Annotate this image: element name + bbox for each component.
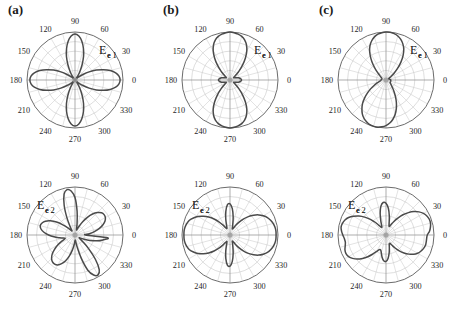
origin-marker (227, 77, 232, 82)
field-label-subscript-index: 2 (206, 205, 210, 215)
angle-tick-240: 240 (194, 282, 206, 291)
field-label-subscript-e: e (356, 205, 360, 215)
origin-marker (383, 232, 388, 237)
angle-tick-330: 330 (431, 261, 443, 270)
angle-tick-60: 60 (100, 180, 108, 189)
angle-tick-300: 300 (98, 282, 110, 291)
angle-tick-60: 60 (411, 25, 419, 34)
angle-tick-120: 120 (350, 180, 362, 189)
angle-tick-330: 330 (275, 261, 287, 270)
angle-tick-180: 180 (10, 76, 22, 85)
angle-tick-180: 180 (321, 76, 333, 85)
angle-tick-210: 210 (18, 106, 30, 115)
field-label-E: E (37, 198, 44, 212)
angle-tick-90: 90 (226, 172, 234, 181)
angle-tick-0: 0 (443, 231, 447, 240)
angle-tick-150: 150 (18, 202, 30, 211)
field-label-E: E (348, 198, 355, 212)
angle-tick-60: 60 (255, 180, 263, 189)
angle-tick-180: 180 (165, 76, 177, 85)
angle-tick-270: 270 (224, 135, 236, 144)
field-label: Ee2 (192, 198, 210, 215)
angle-tick-210: 210 (173, 261, 185, 270)
polar-radiation-pattern-figure: (a)0306090120150180210240270300330Ee1(b)… (0, 0, 466, 309)
field-label-subscript-index: 2 (51, 205, 55, 215)
angle-tick-30: 30 (433, 47, 441, 56)
field-label-subscript-e: e (107, 50, 111, 60)
angle-tick-210: 210 (173, 106, 185, 115)
polar-plot-panel-a-top: 0306090120150180210240270300330Ee1 (0, 0, 150, 152)
angle-tick-300: 300 (98, 127, 110, 136)
polar-plot-panel-b-top: 0306090120150180210240270300330Ee1 (155, 0, 305, 152)
angle-tick-300: 300 (253, 282, 265, 291)
angle-tick-240: 240 (350, 127, 362, 136)
panel-letter-label: (a) (8, 2, 23, 18)
angle-tick-330: 330 (120, 106, 132, 115)
angle-tick-0: 0 (132, 76, 136, 85)
angle-tick-30: 30 (277, 47, 285, 56)
field-label-E: E (192, 198, 199, 212)
field-label-subscript-index: 2 (362, 205, 366, 215)
angle-tick-330: 330 (120, 261, 132, 270)
angle-tick-180: 180 (165, 231, 177, 240)
angle-tick-240: 240 (194, 127, 206, 136)
origin-marker (383, 77, 388, 82)
angle-tick-90: 90 (382, 17, 390, 26)
angle-tick-300: 300 (409, 282, 421, 291)
field-label-subscript-e: e (45, 205, 49, 215)
angle-tick-330: 330 (431, 106, 443, 115)
field-label: Ee2 (37, 198, 55, 215)
angle-tick-0: 0 (287, 76, 291, 85)
angle-tick-120: 120 (39, 25, 51, 34)
angle-tick-180: 180 (10, 231, 22, 240)
angle-tick-300: 300 (253, 127, 265, 136)
angle-tick-120: 120 (39, 180, 51, 189)
polar-plot-panel-c-top: 0306090120150180210240270300330Ee1 (311, 0, 461, 152)
field-label-subscript-index: 1 (113, 50, 117, 60)
field-label: Ee2 (348, 198, 366, 215)
angle-tick-270: 270 (380, 290, 392, 299)
angle-tick-150: 150 (329, 47, 341, 56)
angle-tick-270: 270 (69, 135, 81, 144)
angle-tick-30: 30 (122, 47, 130, 56)
polar-panel-panel-b-bottom: 0306090120150180210240270300330Ee2 (155, 155, 305, 307)
field-label-subscript-e: e (200, 205, 204, 215)
field-label-E: E (99, 43, 106, 57)
polar-panel-panel-c-top: (c)0306090120150180210240270300330Ee1 (311, 0, 461, 152)
polar-panel-panel-c-bottom: 0306090120150180210240270300330Ee2 (311, 155, 461, 307)
angle-tick-0: 0 (443, 76, 447, 85)
polar-panel-panel-a-bottom: 0306090120150180210240270300330Ee2 (0, 155, 150, 307)
angle-tick-90: 90 (382, 172, 390, 181)
angle-tick-120: 120 (350, 25, 362, 34)
angle-tick-30: 30 (277, 202, 285, 211)
polar-plot-panel-c-bottom: 0306090120150180210240270300330Ee2 (311, 155, 461, 307)
polar-panel-panel-b-top: (b)0306090120150180210240270300330Ee1 (155, 0, 305, 152)
polar-plot-panel-a-bottom: 0306090120150180210240270300330Ee2 (0, 155, 150, 307)
angle-tick-150: 150 (18, 47, 30, 56)
angle-tick-60: 60 (255, 25, 263, 34)
angle-tick-180: 180 (321, 231, 333, 240)
angle-tick-240: 240 (350, 282, 362, 291)
angle-tick-90: 90 (226, 17, 234, 26)
field-label-E: E (410, 43, 417, 57)
angle-tick-240: 240 (39, 282, 51, 291)
field-label-subscript-index: 1 (424, 50, 428, 60)
angle-tick-30: 30 (122, 202, 130, 211)
angle-tick-0: 0 (132, 231, 136, 240)
field-label-subscript-e: e (262, 50, 266, 60)
polar-panel-panel-a-top: (a)0306090120150180210240270300330Ee1 (0, 0, 150, 152)
angle-tick-270: 270 (380, 135, 392, 144)
angle-tick-210: 210 (18, 261, 30, 270)
panel-letter-label: (b) (163, 2, 179, 18)
polar-plot-panel-b-bottom: 0306090120150180210240270300330Ee2 (155, 155, 305, 307)
angle-tick-150: 150 (173, 202, 185, 211)
angle-tick-90: 90 (71, 17, 79, 26)
angle-tick-150: 150 (173, 47, 185, 56)
field-label-subscript-e: e (418, 50, 422, 60)
angle-tick-60: 60 (100, 25, 108, 34)
angle-tick-120: 120 (194, 180, 206, 189)
angle-tick-240: 240 (39, 127, 51, 136)
angle-tick-300: 300 (409, 127, 421, 136)
angle-tick-210: 210 (329, 106, 341, 115)
angle-tick-270: 270 (69, 290, 81, 299)
